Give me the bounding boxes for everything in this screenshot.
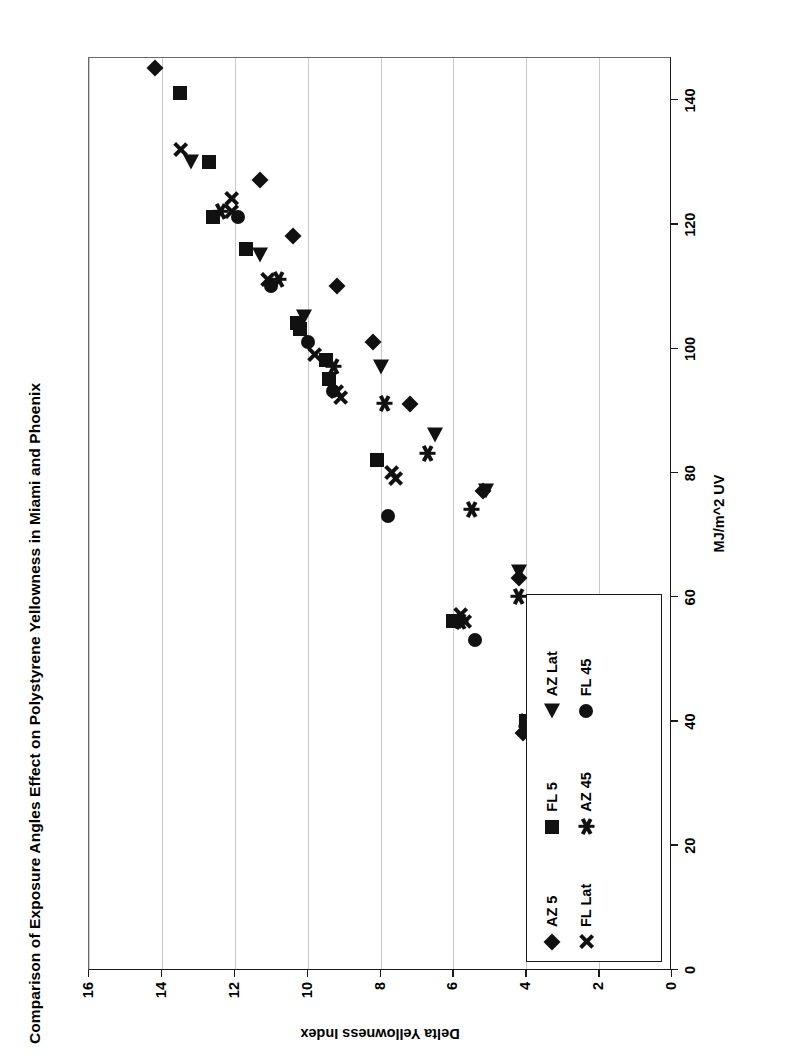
data-point (326, 384, 340, 398)
data-point (212, 203, 229, 220)
x-axis-tick-label: 60 (682, 589, 698, 605)
data-point (463, 501, 480, 518)
data-point (325, 358, 342, 375)
marker-diamond-icon (544, 934, 561, 951)
y-axis-tick-label: 16 (80, 982, 96, 1016)
data-point (264, 279, 278, 293)
data-point (419, 445, 436, 462)
y-axis-tick (161, 970, 162, 977)
chart-figure: Comparison of Exposure Angles Effect on … (0, 0, 799, 1062)
data-point (478, 483, 494, 498)
data-point (252, 172, 269, 189)
x-axis-tick (671, 99, 678, 100)
x-axis-tick (671, 348, 678, 349)
x-axis-tick-label: 140 (682, 88, 698, 112)
data-point (401, 395, 418, 412)
legend-swatch (577, 818, 595, 836)
data-point (252, 247, 268, 262)
x-axis-tick (671, 844, 678, 845)
legend-item-label: AZ Lat (544, 651, 560, 696)
data-point (285, 228, 302, 245)
data-point (231, 210, 245, 224)
legend-item-label: FL 5 (544, 782, 560, 812)
y-axis-tick-label: 2 (590, 982, 606, 1016)
data-point (202, 155, 216, 169)
x-axis-tick-label: 100 (682, 337, 698, 361)
y-axis-tick-label: 0 (663, 982, 679, 1016)
data-point (381, 509, 395, 523)
legend-item-fl-5[interactable]: FL 5 (535, 720, 569, 835)
legend-item-label: FL Lat (578, 884, 594, 927)
y-axis-tick (452, 970, 453, 977)
y-axis-title: Delta Yellowness Index (300, 1026, 459, 1042)
legend-row: AZ 5FL 5AZ Lat (535, 605, 569, 951)
legend-item-fl-lat[interactable]: FL Lat (569, 836, 603, 951)
data-point (383, 464, 400, 481)
legend-item-label: AZ 5 (544, 896, 560, 927)
legend-item-label: FL 45 (578, 659, 594, 697)
rotated-page-wrapper: Comparison of Exposure Angles Effect on … (0, 0, 799, 1062)
data-point (146, 60, 163, 77)
x-axis-tick-label: 20 (682, 838, 698, 854)
data-point (452, 613, 469, 630)
data-point (296, 309, 312, 324)
data-point (376, 395, 393, 412)
x-axis-tick-label: 120 (682, 213, 698, 237)
x-axis-tick-label: 40 (682, 714, 698, 730)
grid-line (308, 58, 309, 969)
data-point (427, 427, 443, 442)
y-axis-tick (234, 970, 235, 977)
chart-legend: AZ 5FL 5AZ LatFL LatAZ 45FL 45 (526, 594, 662, 962)
y-axis-tick (307, 970, 308, 977)
legend-swatch (543, 818, 561, 836)
x-axis-tick (671, 472, 678, 473)
data-point (468, 633, 482, 647)
legend-swatch (543, 702, 561, 720)
data-point (239, 242, 253, 256)
x-axis-tick (671, 720, 678, 721)
y-axis-tick (671, 970, 672, 977)
x-axis-title: MJ/m^2 UV (711, 57, 727, 970)
legend-item-az-45[interactable]: AZ 45 (569, 720, 603, 835)
data-point (370, 453, 384, 467)
y-axis-tick-label: 4 (517, 982, 533, 1016)
legend-swatch (577, 933, 595, 951)
marker-circle-icon (579, 704, 593, 718)
x-axis-tick (671, 223, 678, 224)
grid-line (89, 58, 90, 969)
legend-row: FL LatAZ 45FL 45 (569, 605, 603, 951)
marker-triangle-icon (544, 704, 560, 719)
x-axis-tick-label: 80 (682, 465, 698, 481)
y-axis-tick (525, 970, 526, 977)
marker-star-icon (578, 818, 595, 835)
y-axis-tick-label: 14 (153, 982, 169, 1016)
y-axis-tick (380, 970, 381, 977)
data-point (328, 277, 345, 294)
data-point (301, 335, 315, 349)
legend-item-az-5[interactable]: AZ 5 (535, 836, 569, 951)
marker-square-icon (545, 820, 559, 834)
data-point (511, 564, 527, 579)
legend-swatch (577, 702, 595, 720)
marker-x-icon (578, 934, 595, 951)
legend-item-fl-45[interactable]: FL 45 (569, 605, 603, 720)
chart-title: Comparison of Exposure Angles Effect on … (26, 383, 44, 1044)
x-axis-tick-label: 0 (682, 966, 698, 974)
y-axis-tick-label: 12 (226, 982, 242, 1016)
data-point (373, 359, 389, 374)
y-axis-tick (598, 970, 599, 977)
legend-item-az-lat[interactable]: AZ Lat (535, 605, 569, 720)
data-point (172, 141, 189, 158)
legend-item-label: AZ 45 (578, 772, 594, 812)
legend-swatch (543, 933, 561, 951)
x-axis-tick (671, 596, 678, 597)
data-point (365, 333, 382, 350)
y-axis-tick (88, 970, 89, 977)
y-axis-tick-label: 6 (444, 982, 460, 1016)
y-axis-tick-label: 10 (299, 982, 315, 1016)
grid-line (453, 58, 454, 969)
data-point (173, 86, 187, 100)
y-axis-tick-label: 8 (372, 982, 388, 1016)
data-point (510, 588, 527, 605)
grid-line (162, 58, 163, 969)
